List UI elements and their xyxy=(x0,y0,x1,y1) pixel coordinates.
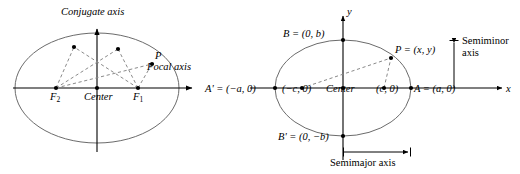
left-center-label: Center xyxy=(84,91,113,103)
focus-2-subscript: 2 xyxy=(56,95,60,104)
vertex-B-prime-label: B' = (0, −b) xyxy=(278,131,329,143)
right-vertex-A-point xyxy=(409,86,413,90)
left-center-point xyxy=(95,86,99,90)
right-point-p xyxy=(389,56,393,60)
right-center-label: Center xyxy=(326,83,355,95)
right-y-axis-label: y xyxy=(347,6,352,18)
semiminor-axis-label: Semiminor axis xyxy=(462,35,518,60)
left-focal-radii-F2 xyxy=(56,47,152,88)
semiminor-axis-bracket xyxy=(450,41,459,89)
focal-axis-label: Focal axis xyxy=(147,61,191,73)
focus-right-label: (c, 0) xyxy=(376,83,398,95)
right-x-axis-label: x xyxy=(506,83,511,95)
focus-1-subscript: 1 xyxy=(139,95,143,104)
right-point-p-label: P = (x, y) xyxy=(395,44,435,56)
semimajor-axis-label: Semimajor axis xyxy=(330,157,396,169)
left-focus-1-point xyxy=(136,86,140,90)
right-vertex-A-prime-point xyxy=(273,86,277,90)
left-point-p-label: P xyxy=(155,50,161,62)
focus-left-label: (−c, 0) xyxy=(282,83,311,95)
right-vertex-B-prime-point xyxy=(341,134,345,138)
left-focal-radii-F1 xyxy=(74,47,152,88)
right-vertex-B-point xyxy=(341,38,345,42)
focus-2-label: F2 xyxy=(50,91,60,104)
vertex-B-label: B = (0, b) xyxy=(283,28,325,40)
conjugate-axis-label: Conjugate axis xyxy=(61,6,124,18)
focus-1-label: F1 xyxy=(133,91,143,104)
left-ellipse-point-1 xyxy=(72,45,76,49)
vertex-A-prime-label: A' = (−a, 0) xyxy=(205,83,256,95)
left-ellipse-point-2 xyxy=(116,47,120,51)
left-focus-2-point xyxy=(54,86,58,90)
vertex-A-label: A = (a, 0) xyxy=(414,83,455,95)
ellipse-figure: Conjugate axis Focal axis Center F1 F2 P… xyxy=(0,0,520,174)
semimajor-axis-bracket xyxy=(343,148,411,157)
